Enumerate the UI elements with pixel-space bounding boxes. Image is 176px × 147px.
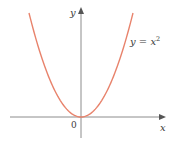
y-axis-label: y bbox=[69, 7, 76, 18]
origin-label: 0 bbox=[71, 120, 77, 130]
curve-label: y = x2 bbox=[129, 35, 160, 47]
y-axis-arrow-icon bbox=[78, 7, 84, 14]
parabola-plot: y x 0 y = x2 bbox=[0, 0, 176, 147]
curve-label-exponent: 2 bbox=[156, 35, 160, 43]
x-axis-label: x bbox=[160, 122, 166, 133]
curve-label-main: y = x bbox=[129, 36, 156, 47]
x-axis-arrow-icon bbox=[159, 114, 166, 120]
